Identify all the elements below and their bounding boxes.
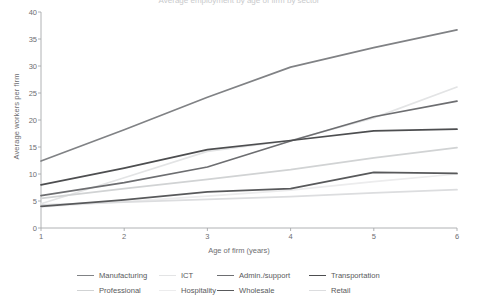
legend-row-2: ProfessionalHospitalityWholesaleRetail <box>0 283 478 298</box>
x-axis-tick-labels: 123456 <box>41 232 457 244</box>
legend-label: Hospitality <box>181 286 216 295</box>
legend-swatch-line-icon <box>309 290 326 291</box>
series-line-manufacturing <box>41 30 457 161</box>
legend-swatch-line-icon <box>309 275 326 276</box>
legend-item-hospitality[interactable]: Hospitality <box>159 286 217 295</box>
legend-label: Manufacturing <box>99 271 147 280</box>
legend-swatch-line-icon <box>217 275 234 276</box>
axis-spine <box>41 12 457 228</box>
plot-area <box>41 12 457 228</box>
y-axis-title: Average workers per firm <box>12 57 21 177</box>
legend-swatch-line-icon <box>159 275 176 276</box>
x-tick-label: 1 <box>39 232 43 241</box>
legend-label: ICT <box>181 271 193 280</box>
legend-label: Retail <box>331 286 350 295</box>
x-tick-label: 2 <box>122 232 126 241</box>
series-line-admin-support <box>41 101 457 196</box>
y-tick-label: 5 <box>33 197 37 206</box>
y-tick-label: 10 <box>29 170 37 179</box>
y-tick-label: 40 <box>29 8 37 17</box>
chart-legend: ManufacturingICTAdmin./supportTransporta… <box>0 268 478 298</box>
legend-swatch-line-icon <box>77 275 94 276</box>
legend-item-professional[interactable]: Professional <box>77 286 159 295</box>
x-tick-label: 6 <box>455 232 459 241</box>
series-line-wholesale <box>41 172 457 206</box>
chart-title-text: Average employment by age of firm by sec… <box>0 0 478 5</box>
legend-label: Transportation <box>331 271 380 280</box>
x-axis-title: Age of firm (years) <box>0 246 478 255</box>
legend-row-1: ManufacturingICTAdmin./supportTransporta… <box>0 268 478 283</box>
x-tick-label: 4 <box>289 232 293 241</box>
line-chart-svg <box>41 12 457 228</box>
y-tick-label: 0 <box>33 224 37 233</box>
chart-screenshot: Average employment by age of firm by sec… <box>0 0 478 307</box>
y-tick-label: 20 <box>29 116 37 125</box>
y-tick-label: 25 <box>29 89 37 98</box>
y-tick-label: 35 <box>29 35 37 44</box>
legend-swatch-line-icon <box>159 290 176 291</box>
legend-item-retail[interactable]: Retail <box>309 286 401 295</box>
legend-label: Wholesale <box>239 286 274 295</box>
legend-item-wholesale[interactable]: Wholesale <box>217 286 309 295</box>
legend-item-ict[interactable]: ICT <box>159 271 217 280</box>
x-tick-label: 5 <box>372 232 376 241</box>
y-tick-label: 15 <box>29 143 37 152</box>
chart-title-clipped: Average employment by age of firm by sec… <box>0 0 478 8</box>
series-line-retail <box>41 190 457 205</box>
legend-item-admin-support[interactable]: Admin./support <box>217 271 309 280</box>
legend-swatch-line-icon <box>217 290 234 291</box>
legend-item-transportation[interactable]: Transportation <box>309 271 401 280</box>
legend-item-manufacturing[interactable]: Manufacturing <box>77 271 159 280</box>
x-tick-label: 3 <box>205 232 209 241</box>
legend-label: Admin./support <box>239 271 290 280</box>
y-tick-label: 30 <box>29 62 37 71</box>
legend-swatch-line-icon <box>77 290 94 291</box>
legend-label: Professional <box>99 286 141 295</box>
